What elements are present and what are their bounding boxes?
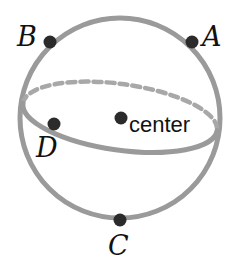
- point-label-c: C: [108, 232, 129, 259]
- point-marker-D: [48, 118, 61, 131]
- sphere-diagram: A B C D center: [0, 0, 236, 268]
- point-marker-A: [186, 36, 199, 49]
- point-marker-B: [44, 36, 57, 49]
- point-marker-center: [115, 112, 128, 125]
- point-label-a: A: [202, 23, 222, 50]
- point-marker-C: [114, 214, 127, 227]
- point-label-center: center: [129, 114, 190, 136]
- point-label-d: D: [36, 134, 58, 161]
- point-label-b: B: [17, 23, 37, 50]
